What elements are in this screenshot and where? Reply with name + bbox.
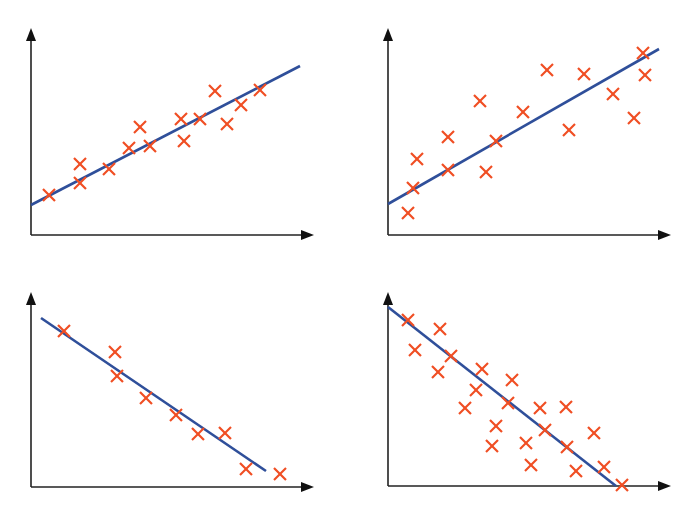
- cross-marker-icon: [570, 465, 582, 477]
- scatter-plot-bottom-left: [26, 292, 314, 492]
- cross-marker-icon: [111, 370, 123, 382]
- y-axis-arrow-icon: [26, 28, 36, 41]
- cross-marker-icon: [588, 427, 600, 439]
- cross-marker-icon: [434, 323, 446, 335]
- cross-marker-icon: [74, 158, 86, 170]
- plots-canvas: [0, 0, 698, 505]
- cross-marker-icon: [445, 350, 457, 362]
- x-axis-arrow-icon: [658, 481, 671, 491]
- cross-marker-icon: [140, 392, 152, 404]
- cross-marker-icon: [563, 124, 575, 136]
- cross-marker-icon: [178, 135, 190, 147]
- cross-marker-icon: [209, 85, 221, 97]
- cross-marker-icon: [274, 468, 286, 480]
- scatter-plot-bottom-right: [383, 292, 671, 491]
- cross-marker-icon: [240, 463, 252, 475]
- cross-marker-icon: [221, 118, 233, 130]
- cross-marker-icon: [607, 88, 619, 100]
- cross-marker-icon: [480, 166, 492, 178]
- cross-marker-icon: [506, 374, 518, 386]
- cross-marker-icon: [598, 461, 610, 473]
- cross-marker-icon: [520, 437, 532, 449]
- cross-marker-icon: [561, 441, 573, 453]
- x-axis-arrow-icon: [301, 482, 314, 492]
- cross-marker-icon: [219, 427, 231, 439]
- cross-marker-icon: [432, 366, 444, 378]
- cross-marker-icon: [442, 131, 454, 143]
- y-axis-arrow-icon: [383, 292, 393, 305]
- cross-marker-icon: [525, 459, 537, 471]
- regression-line: [388, 307, 616, 486]
- regression-line: [31, 66, 300, 205]
- cross-marker-icon: [474, 95, 486, 107]
- cross-marker-icon: [235, 99, 247, 111]
- cross-marker-icon: [43, 189, 55, 201]
- cross-marker-icon: [578, 68, 590, 80]
- cross-marker-icon: [560, 401, 572, 413]
- cross-marker-icon: [192, 428, 204, 440]
- cross-marker-icon: [123, 142, 135, 154]
- cross-marker-icon: [470, 384, 482, 396]
- cross-marker-icon: [534, 402, 546, 414]
- x-axis-arrow-icon: [658, 230, 671, 240]
- cross-marker-icon: [490, 420, 502, 432]
- cross-marker-icon: [442, 164, 454, 176]
- cross-marker-icon: [409, 344, 421, 356]
- scatter-plot-top-left: [26, 28, 314, 240]
- cross-marker-icon: [411, 153, 423, 165]
- cross-marker-icon: [541, 64, 553, 76]
- y-axis-arrow-icon: [26, 292, 36, 305]
- cross-marker-icon: [459, 402, 471, 414]
- regression-line: [41, 318, 266, 471]
- y-axis-arrow-icon: [383, 28, 393, 41]
- cross-marker-icon: [175, 113, 187, 125]
- cross-marker-icon: [486, 440, 498, 452]
- cross-marker-icon: [402, 207, 414, 219]
- scatter-plot-grid: [0, 0, 698, 505]
- cross-marker-icon: [134, 121, 146, 133]
- scatter-plot-top-right: [383, 28, 671, 240]
- cross-marker-icon: [476, 363, 488, 375]
- cross-marker-icon: [628, 112, 640, 124]
- regression-line: [388, 49, 659, 204]
- cross-marker-icon: [616, 479, 628, 491]
- cross-marker-icon: [639, 69, 651, 81]
- cross-marker-icon: [517, 106, 529, 118]
- x-axis-arrow-icon: [301, 230, 314, 240]
- cross-marker-icon: [109, 346, 121, 358]
- cross-marker-icon: [539, 424, 551, 436]
